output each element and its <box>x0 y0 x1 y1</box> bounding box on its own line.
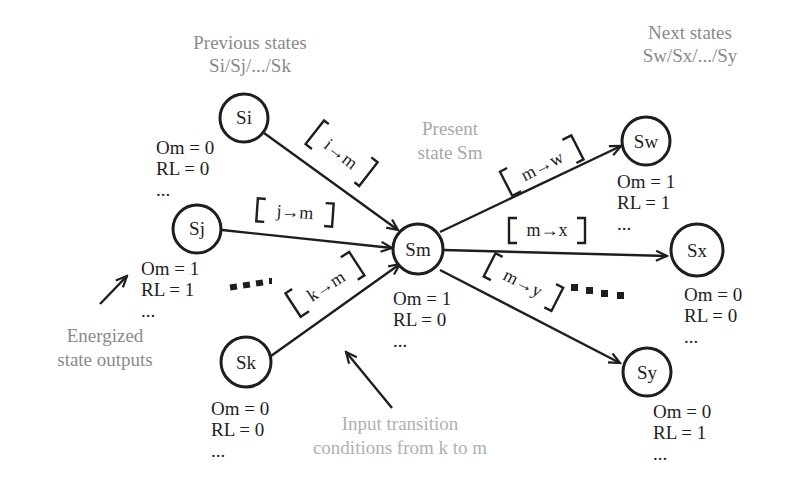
condition-j-m: j→m <box>256 198 333 226</box>
input-conditions-label: Input transition conditions from k to m <box>280 412 520 460</box>
edge-sm-sx <box>443 250 667 256</box>
si-rl: RL = 0 <box>156 158 214 179</box>
more-next-states-dots <box>571 284 624 299</box>
sm-om: Om = 1 <box>393 288 451 309</box>
svg-text:j→m: j→m <box>275 201 314 224</box>
next-states-title: Next states <box>590 21 790 44</box>
svg-text:k→m: k→m <box>303 266 348 305</box>
svg-text:Sk: Sk <box>236 352 257 373</box>
sk-om: Om = 0 <box>211 398 269 419</box>
sw-more: ... <box>617 213 675 234</box>
sx-rl: RL = 0 <box>684 305 742 326</box>
sm-more: ... <box>393 330 451 351</box>
node-sy: Sy <box>623 348 671 396</box>
previous-states-title: Previous states <box>150 31 350 54</box>
previous-states-list: Si/Sj/.../Sk <box>150 54 350 77</box>
condition-k-m: k→m <box>285 252 364 317</box>
sj-om: Om = 1 <box>141 258 199 279</box>
node-sj: Sj <box>173 205 221 253</box>
svg-text:i→m: i→m <box>320 135 361 174</box>
node-sw: Sw <box>622 117 670 165</box>
sk-outputs: Om = 0 RL = 0 ... <box>211 398 269 461</box>
svg-text:Sj: Sj <box>189 218 205 239</box>
sw-outputs: Om = 1 RL = 1 ... <box>617 171 675 234</box>
sm-rl: RL = 0 <box>393 309 451 330</box>
sj-more: ... <box>141 300 199 321</box>
si-om: Om = 0 <box>156 137 214 158</box>
svg-text:Sy: Sy <box>637 362 658 383</box>
sk-more: ... <box>211 440 269 461</box>
svg-text:Sw: Sw <box>634 131 659 152</box>
condition-m-x: m→x <box>509 218 585 243</box>
sm-outputs: Om = 1 RL = 0 ... <box>393 288 451 351</box>
node-sx: Sx <box>671 224 723 276</box>
input-conditions-arrow <box>346 352 392 408</box>
sy-om: Om = 0 <box>653 401 711 422</box>
si-more: ... <box>156 179 214 200</box>
svg-text:Sm: Sm <box>405 239 431 260</box>
sy-more: ... <box>653 443 711 464</box>
energized-outputs-arrow <box>100 276 127 304</box>
svg-text:Si: Si <box>236 107 252 128</box>
sj-rl: RL = 1 <box>141 279 199 300</box>
sw-om: Om = 1 <box>617 171 675 192</box>
node-sm: Sm <box>393 224 443 274</box>
svg-text:m→y: m→y <box>500 265 546 301</box>
condition-i-m: i→m <box>306 120 378 186</box>
node-si: Si <box>220 94 268 142</box>
previous-states-header: Previous states Si/Sj/.../Sk <box>150 31 350 77</box>
sw-rl: RL = 1 <box>617 192 675 213</box>
svg-text:m→x: m→x <box>526 220 567 240</box>
svg-text:m→w: m→w <box>517 147 566 185</box>
sx-more: ... <box>684 326 742 347</box>
si-outputs: Om = 0 RL = 0 ... <box>156 137 214 200</box>
sy-rl: RL = 1 <box>653 422 711 443</box>
next-states-header: Next states Sw/Sx/.../Sy <box>590 21 790 67</box>
sk-rl: RL = 0 <box>211 419 269 440</box>
node-sk: Sk <box>221 337 271 387</box>
state-transition-diagram: Si Sj Sk Sm Sw Sx Sy i→m <box>0 0 792 486</box>
edge-sj-sm <box>222 230 392 248</box>
sx-outputs: Om = 0 RL = 0 ... <box>684 284 742 347</box>
more-previous-states-dots <box>230 278 272 290</box>
next-states-list: Sw/Sx/.../Sy <box>590 44 790 67</box>
svg-text:Sx: Sx <box>687 240 708 261</box>
present-state-label: Present state Sm <box>380 117 520 165</box>
energized-outputs-label: Energized state outputs <box>20 324 190 372</box>
sx-om: Om = 0 <box>684 284 742 305</box>
condition-m-y: m→y <box>484 253 564 311</box>
sy-outputs: Om = 0 RL = 1 ... <box>653 401 711 464</box>
sj-outputs: Om = 1 RL = 1 ... <box>141 258 199 321</box>
